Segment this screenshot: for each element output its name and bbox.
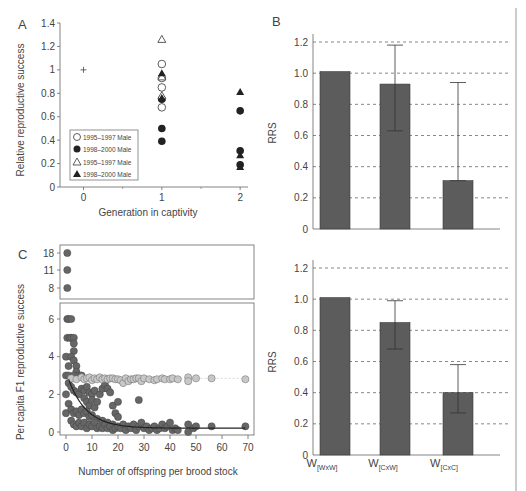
plus-marker [81,67,87,73]
panel-b-category-labels: W[WxW] W[CxW] W[CxC] [307,457,459,472]
x-tick-label: 30 [138,442,150,453]
panel-a-legend: 1995–1997 Male 1998–2000 Male 1995–1997 … [70,130,138,180]
dark-point [114,413,121,420]
y-tick-label: 1 [49,64,55,75]
y-tick-label: 0.2 [294,192,308,203]
y-tick-label: 2 [48,389,54,400]
x-tick-label: 20 [112,442,124,453]
y-tick-label: 18 [43,248,55,259]
panel-c-x-axis-label: Number of offspring per brood stock [78,466,238,477]
dark-point [192,423,199,430]
legend-item-1: 1995–1997 Male [74,134,132,142]
y-tick-label: 1.2 [294,263,308,274]
y-tick-label: 0.6 [41,111,55,122]
y-tick-label: 1.0 [294,294,308,305]
svg-text:1998–2000 Male: 1998–2000 Male [83,146,132,153]
y-tick-label: 0.8 [41,88,55,99]
panel-c-y-axis-label: Per capita F1 reproductive success [15,284,26,440]
legend-item-2: 1998–2000 Male [74,146,132,154]
y-tick-label: 8 [48,283,54,294]
y-tick-label: 0.2 [294,418,308,429]
light-point [174,376,181,383]
x-tick-label: 60 [216,442,228,453]
y-tick-label: 6 [48,314,54,325]
bar [320,72,350,229]
open-triangle-marker [158,35,166,42]
dark-point [107,389,114,396]
category-label-wxw: W[WxW] [307,457,338,472]
dark-point [166,419,173,426]
dark-point [70,340,77,347]
dark-point [135,396,142,403]
y-tick-label: 1.0 [294,68,308,79]
y-tick-label: 0.4 [294,161,308,172]
y-tick-label: 1.2 [294,37,308,48]
x-tick-label: 2 [237,192,243,203]
y-tick-label: 0 [302,224,308,235]
y-tick-label: 0.4 [294,387,308,398]
dark-point [208,423,215,430]
bar [320,298,350,455]
filled-circle-marker [158,125,166,133]
y-tick-label: 0.6 [294,130,308,141]
x-tick-label: 0 [81,192,87,203]
outlier-point [64,249,71,256]
x-tick-label: 1 [159,192,165,203]
panel-b-top-chart: 00.20.40.60.81.01.2 [294,34,508,235]
y-tick-label: 0.8 [294,99,308,110]
y-tick-label: 1.2 [41,41,55,52]
x-tick-label: 50 [190,442,202,453]
y-tick-label: 1.4 [41,18,55,29]
panel-a-x-axis-label: Generation in captivity [99,207,198,218]
y-tick-label: 0.2 [41,158,55,169]
figure: A 00.20.40.60.811.21.4012 Relative repro… [0,0,526,491]
outlier-point [64,284,71,291]
dark-point [94,398,101,405]
dark-point [68,315,75,322]
upper-plot-frame [60,245,254,299]
panel-a-label: A [18,17,27,32]
panel-a-y-axis-label: Relative reproductive success [15,44,26,177]
panel-b-bottom-y-axis-label: RRS [267,351,278,372]
dark-point [242,423,249,430]
filled-triangle-marker [236,88,244,95]
panel-c: C Per capita F1 reproductive success Num… [15,245,254,477]
dark-point [114,398,121,405]
outlier-point [64,266,71,273]
svg-text:1995–1997 Male: 1995–1997 Male [83,159,132,166]
x-tick-label: 40 [164,442,176,453]
x-tick-label: 70 [242,442,254,453]
bar [443,181,473,229]
y-tick-label: 0 [49,182,55,193]
open-circle-marker [158,60,166,68]
panel-b: B 00.20.40.60.81.01.2 00.20.40.60.81.01.… [267,8,516,491]
dark-point [62,391,69,398]
y-tick-label: 0.4 [41,135,55,146]
category-label-cxc: W[CxC] [430,457,458,472]
svg-text:1998–2000 Male: 1998–2000 Male [83,171,132,178]
panel-c-label: C [18,247,27,262]
light-point [185,378,192,385]
svg-text:1995–1997 Male: 1995–1997 Male [83,134,132,141]
panel-a: A 00.20.40.60.811.21.4012 Relative repro… [15,17,248,218]
y-tick-label: 0.8 [294,325,308,336]
light-point [242,376,249,383]
open-circle-icon [74,134,81,141]
x-tick-label: 10 [86,442,98,453]
y-tick-label: 0 [48,427,54,438]
panel-b-top-y-axis-label: RRS [267,122,278,143]
filled-circle-marker [236,107,244,115]
panel-b-label: B [272,14,281,29]
y-tick-label: 0.6 [294,356,308,367]
filled-circle-icon [74,146,81,153]
panel-c-points [62,249,249,435]
filled-circle-marker [158,138,166,146]
category-label-cxw: W[CxW] [368,457,397,472]
open-circle-marker [158,104,166,112]
panel-b-bottom-chart: 00.20.40.60.81.01.2 [294,260,508,461]
y-tick-label: 11 [44,265,55,276]
y-tick-label: 4 [48,351,54,362]
x-tick-label: 0 [63,442,69,453]
open-circle-marker [158,84,166,92]
filled-triangle-marker [158,69,166,76]
